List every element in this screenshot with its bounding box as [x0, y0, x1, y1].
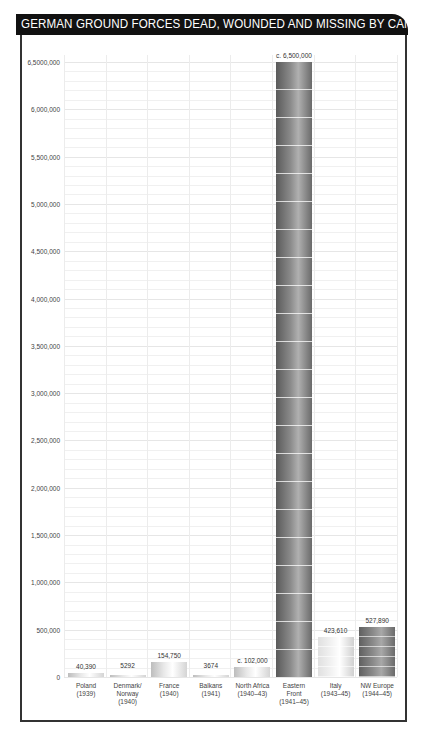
- y-tick-label: 5,000,000: [22, 200, 60, 207]
- category-label: Italy (1943–45): [313, 682, 359, 698]
- y-tick-label: 6,000,000: [22, 106, 60, 113]
- y-tick-label: 2,000,000: [22, 484, 60, 491]
- gridline: [314, 55, 315, 677]
- bar-value-label: 423,610: [306, 627, 366, 634]
- category-label: NW Europe (1944–45): [354, 682, 400, 698]
- chart-title: GERMAN GROUND FORCES DEAD, WOUNDED AND M…: [21, 17, 425, 31]
- y-tick-label: 3,000,000: [22, 390, 60, 397]
- gridline: [230, 55, 231, 677]
- bar: [276, 62, 312, 677]
- bar-value-label: 527,890: [347, 617, 407, 624]
- bar-value-label: c. 6,500,000: [264, 52, 324, 59]
- plot-area: [64, 55, 397, 677]
- bar-value-label: c. 102,000: [222, 657, 282, 664]
- category-label: France (1940): [146, 682, 192, 698]
- gridline: [189, 55, 190, 677]
- gridline: [397, 55, 398, 677]
- bar-value-label: 5292: [98, 662, 158, 669]
- gridline: [147, 55, 148, 677]
- bar: [359, 627, 395, 677]
- bar: [110, 675, 146, 677]
- y-tick-label: 0: [22, 674, 60, 681]
- category-label: Eastern Front (1941–45): [271, 682, 317, 706]
- gridline: [64, 55, 65, 677]
- y-tick-label: 5,500,000: [22, 153, 60, 160]
- y-tick-label: 500,000: [22, 626, 60, 633]
- y-tick-label: 3,500,000: [22, 342, 60, 349]
- gridline: [64, 677, 397, 678]
- y-tick-label: 2,500,000: [22, 437, 60, 444]
- bar: [193, 675, 229, 677]
- category-label: Denmark/ Norway (1940): [105, 682, 151, 706]
- y-tick-label: 1,500,000: [22, 532, 60, 539]
- bar: [68, 673, 104, 677]
- y-tick-label: 1,000,000: [22, 579, 60, 586]
- y-tick-label: 6,5000,000: [22, 59, 60, 66]
- gridline: [106, 55, 107, 677]
- bar-value-label: 154,750: [139, 652, 199, 659]
- category-label: Poland (1939): [63, 682, 109, 698]
- bar: [318, 637, 354, 677]
- category-label: North Africa (1940–43): [229, 682, 275, 698]
- gridline: [272, 55, 273, 677]
- y-tick-label: 4,500,000: [22, 248, 60, 255]
- category-label: Balkans (1941): [188, 682, 234, 698]
- y-tick-label: 4,000,000: [22, 295, 60, 302]
- gridline: [355, 55, 356, 677]
